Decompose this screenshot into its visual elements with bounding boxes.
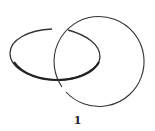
link-diagram — [0, 0, 155, 131]
figure-label: 1 — [0, 114, 155, 127]
